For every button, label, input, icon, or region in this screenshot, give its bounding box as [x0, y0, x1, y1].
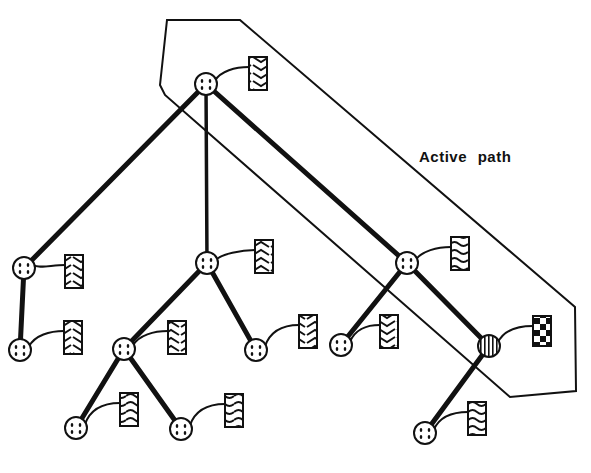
node-R1a — [330, 334, 352, 356]
wave-pattern-box-icon — [225, 394, 243, 427]
edge-M1-M1b — [207, 263, 256, 350]
edge-root-M1 — [206, 84, 207, 263]
chevron-down-pattern-box-icon — [380, 315, 398, 348]
active-path-label: Active path — [419, 148, 511, 165]
dotted-node-icon — [330, 334, 352, 356]
chevron-down-pattern-box-icon — [65, 255, 83, 288]
active-path-region — [160, 20, 576, 397]
chevron-down-pattern-box-icon — [249, 57, 267, 90]
nodes — [9, 57, 551, 444]
connector-R1 — [416, 247, 451, 260]
connector-M1 — [216, 250, 255, 260]
chevron-down-pattern-box-icon — [64, 321, 82, 354]
node-M1a2 — [170, 418, 192, 440]
edge-R1-R1b — [407, 263, 489, 346]
dotted-node-icon — [414, 422, 436, 444]
node-root — [195, 73, 217, 95]
wave-pattern-box-icon — [468, 402, 486, 435]
connector-root — [215, 67, 249, 81]
node-R1 — [396, 252, 418, 274]
dotted-node-icon — [170, 418, 192, 440]
dotted-node-icon — [113, 338, 135, 360]
chevron-up-pattern-box-icon — [299, 315, 317, 348]
node-M1b — [245, 339, 267, 361]
dotted-node-icon — [396, 252, 418, 274]
wave-pattern-box-icon — [120, 393, 138, 426]
dotted-node-icon — [196, 252, 218, 274]
edge-L1-L1a — [20, 268, 24, 350]
striped-node-icon — [478, 335, 500, 357]
edge-root-L1 — [24, 84, 206, 268]
dotted-node-icon — [245, 339, 267, 361]
connector-M1b — [265, 325, 299, 347]
chevron-up-pattern-box-icon — [255, 240, 273, 273]
node-M1a — [113, 338, 135, 360]
connector-L1 — [33, 265, 65, 267]
dotted-node-icon — [9, 339, 31, 361]
dotted-node-icon — [65, 417, 87, 439]
node-R1b — [478, 335, 500, 357]
tree-diagram — [0, 0, 591, 473]
node-R1b1 — [414, 422, 436, 444]
dotted-node-icon — [13, 257, 35, 279]
checker-pattern-box-icon — [533, 316, 551, 346]
active-path-outline — [160, 20, 576, 397]
edge-root-R1 — [206, 84, 407, 263]
chevron-up-pattern-box-icon — [168, 321, 186, 354]
connector-R1b — [498, 326, 533, 343]
edge-M1a-M1a1 — [76, 349, 124, 428]
node-L1 — [13, 257, 35, 279]
dotted-node-icon — [195, 73, 217, 95]
node-M1 — [196, 252, 218, 274]
node-M1a1 — [65, 417, 87, 439]
edge-M1-M1a — [124, 263, 207, 349]
connector-L1a — [29, 331, 64, 347]
connector-M1a2 — [190, 404, 225, 426]
node-L1a — [9, 339, 31, 361]
wave-pattern-box-icon — [451, 237, 469, 270]
